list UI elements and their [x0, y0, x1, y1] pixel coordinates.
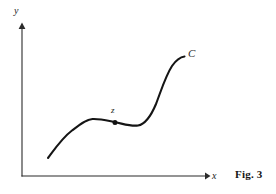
y-axis-label: y — [14, 6, 18, 16]
figure-drawing — [0, 0, 276, 194]
point-label-z: z — [111, 106, 115, 115]
x-axis-label: x — [212, 171, 216, 181]
figure-container: y x C z Fig. 3 — [0, 0, 276, 194]
curve-label-c: C — [188, 48, 195, 59]
x-axis-arrowhead — [205, 172, 211, 179]
curve-c-path — [48, 57, 185, 159]
y-axis-arrowhead — [19, 23, 26, 30]
figure-caption: Fig. 3 — [235, 169, 262, 180]
point-z-marker — [113, 120, 118, 125]
